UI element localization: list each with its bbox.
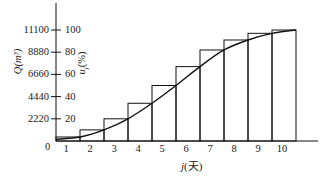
y-right-tick-label: 20 [65,113,76,125]
bar [248,33,272,141]
x-tick-label: 4 [128,143,148,154]
y-right-tick-label: 40 [65,91,76,103]
bar [176,67,200,141]
bar [272,30,296,141]
x-tick-label: 5 [152,143,172,154]
x-tick-label: 9 [248,143,268,154]
x-tick-label: 6 [176,143,196,154]
origin-label: 0 [45,141,50,153]
x-tick-label: 7 [200,143,220,154]
y-left-tick-label: 11100 [5,24,49,36]
y-left-tick-label: 4440 [5,91,49,103]
x-tick-label: 1 [56,143,76,154]
y-right-tick-label: 60 [65,68,76,80]
x-tick-label: 3 [104,143,124,154]
x-tick-label: 8 [224,143,244,154]
bar [128,103,152,141]
y-axis-title-right: uj(%) [76,46,90,80]
y-axis-title-left: Q(m³) [12,45,23,79]
y-right-tick-label: 100 [65,24,81,36]
y-left-tick-label: 2220 [5,113,49,125]
y-right-tick-label: 80 [65,46,76,58]
x-tick-label: 10 [272,143,292,154]
x-axis-title: j(天) [181,157,202,173]
chart: 2220204440406660608880801110010012345678… [0,0,325,181]
bar [104,119,128,141]
bar [224,40,248,141]
x-tick-label: 2 [80,143,100,154]
